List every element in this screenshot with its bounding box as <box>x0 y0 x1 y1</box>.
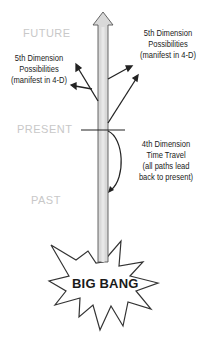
time-travel-arrowhead <box>108 186 114 193</box>
era-label-future: FUTURE <box>23 27 71 39</box>
note-line: Time Travel <box>133 150 200 161</box>
left-5th-dimension-note: 5th Dimension Possibilities (manifest in… <box>6 53 71 86</box>
big-bang-label: BIG BANG <box>72 276 139 291</box>
right-5th-dimension-note: 5th Dimension Possibilities (manifest in… <box>135 28 202 61</box>
note-line: (manifest in 4-D) <box>6 75 71 86</box>
era-label-present: PRESENT <box>17 123 72 135</box>
note-line: 5th Dimension <box>6 53 71 64</box>
note-line: Possibilities <box>135 39 202 50</box>
time-travel-curve <box>108 131 121 190</box>
time-travel-note: 4th Dimension Time Travel (all paths lea… <box>133 139 200 183</box>
left-possibility-arrows <box>71 64 98 101</box>
right-possibility-arrows <box>108 66 138 123</box>
note-line: (all paths lead <box>133 161 200 172</box>
note-line: 5th Dimension <box>135 28 202 39</box>
note-line: Possibilities <box>6 64 71 75</box>
note-line: 4th Dimension <box>133 139 200 150</box>
note-line: (manifest in 4-D) <box>135 50 202 61</box>
era-label-past: PAST <box>31 194 61 206</box>
note-line: back to present) <box>133 172 200 183</box>
